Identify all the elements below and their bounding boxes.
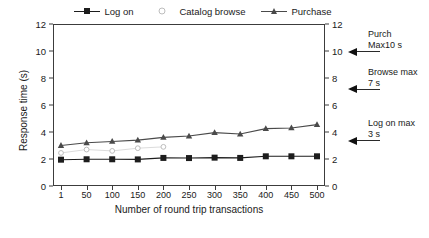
y-axis-tick-left: 0 [20, 181, 46, 192]
data-point [58, 157, 64, 163]
annotation-line-1: Log on max [368, 118, 415, 129]
data-point [186, 155, 192, 161]
data-point [314, 153, 320, 159]
data-point [237, 155, 243, 161]
figure-caption [0, 228, 429, 238]
y-axis-tick-right: 8 [332, 73, 358, 84]
chart-legend: Log on Catalog browse Purchase [63, 2, 343, 20]
x-axis-tick-mark [87, 186, 88, 190]
x-axis-tick-mark [189, 186, 190, 190]
data-point [211, 129, 217, 135]
x-axis-tick-mark [112, 186, 113, 190]
data-point [110, 149, 115, 154]
data-point [314, 121, 320, 127]
series-catalog-browse [59, 144, 166, 155]
legend-marker-square-icon [74, 6, 100, 16]
x-axis-tick-mark [215, 186, 216, 190]
data-point [160, 155, 166, 161]
y-axis-tick-mark [49, 132, 53, 133]
y-axis-tick-mark-right [325, 51, 329, 52]
legend-marker-triangle-icon [261, 6, 287, 16]
y-axis-tick-mark [49, 51, 53, 52]
y-axis-tick-right: 6 [332, 100, 358, 111]
x-axis-label: Number of round trip transactions [53, 204, 325, 215]
legend-entry-log-on: Log on [74, 6, 133, 17]
series-purchase [58, 121, 320, 148]
data-point [135, 146, 140, 151]
y-axis-tick-mark [49, 186, 53, 187]
data-point [263, 153, 269, 159]
y-axis-tick-mark-right [325, 186, 329, 187]
legend-marker-circle-icon [149, 6, 175, 16]
figure-container: Log on Catalog browse Purchase 002244668… [0, 0, 429, 238]
y-axis-tick-mark-right [325, 132, 329, 133]
data-point [161, 144, 166, 149]
data-point [212, 155, 218, 161]
legend-entry-purchase: Purchase [261, 6, 331, 17]
y-axis-tick-right: 2 [332, 154, 358, 165]
y-axis-tick-mark [49, 159, 53, 160]
data-point [288, 153, 294, 159]
legend-label-catalog-browse: Catalog browse [179, 6, 245, 17]
y-axis-tick-mark [49, 105, 53, 106]
x-axis-tick-mark [291, 186, 292, 190]
x-axis-tick: 500 [302, 190, 332, 200]
y-axis-tick-mark [49, 24, 53, 25]
legend-label-purchase: Purchase [291, 6, 331, 17]
y-axis-tick-mark-right [325, 24, 329, 25]
annotation-line-1: Browse max [368, 67, 418, 78]
y-axis-tick-mark-right [325, 105, 329, 106]
data-point [84, 156, 90, 162]
x-axis-tick-mark [240, 186, 241, 190]
x-axis-tick-mark [163, 186, 164, 190]
data-point [135, 156, 141, 162]
y-axis-tick-mark [49, 78, 53, 79]
y-axis-tick-mark-right [325, 78, 329, 79]
series-log-on [58, 153, 320, 162]
legend-label-log-on: Log on [104, 6, 133, 17]
y-axis-tick-mark-right [325, 159, 329, 160]
data-series-layer [53, 24, 325, 186]
data-point [84, 147, 89, 152]
y-axis-label: Response time (s) [18, 46, 29, 176]
x-axis-tick-mark [266, 186, 267, 190]
x-axis-tick-mark [61, 186, 62, 190]
annotation-line-1: Purch [368, 29, 402, 40]
legend-entry-catalog-browse: Catalog browse [149, 6, 245, 17]
y-axis-tick-right: 0 [332, 181, 358, 192]
annotation-arrow-purchase-max [348, 47, 380, 56]
data-point [109, 156, 115, 162]
y-axis-tick-left: 12 [20, 19, 46, 30]
data-point [59, 151, 64, 156]
x-axis-tick-mark [317, 186, 318, 190]
y-axis-tick-right: 12 [332, 19, 358, 30]
x-axis-tick-mark [138, 186, 139, 190]
annotation-arrow-browse-max [348, 85, 380, 94]
annotation-arrow-logon-max [348, 136, 380, 145]
